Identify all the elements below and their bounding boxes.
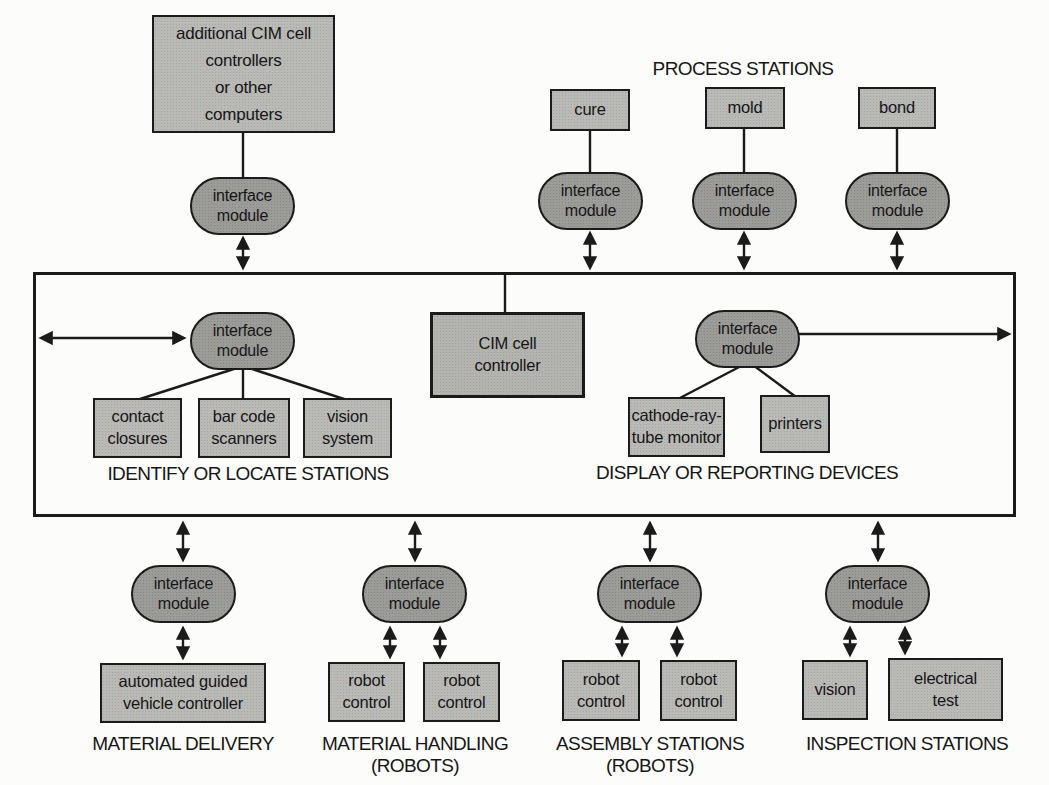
interface-module-pill-mold: interface module: [692, 172, 797, 230]
printers-box: printers: [760, 395, 830, 453]
bond-box: bond: [858, 87, 936, 129]
interface-module-pill-cure: interface module: [538, 172, 643, 230]
material-delivery-label: MATERIAL DELIVERY: [58, 733, 308, 755]
agv-controller-box: automated guided vehicle controller: [100, 663, 266, 723]
electrical-test-box: electrical test: [888, 658, 1003, 721]
mold-box: mold: [705, 87, 785, 129]
robot-control-box-2: robot control: [423, 662, 500, 722]
interface-module-pill-assembly: interface module: [597, 565, 702, 623]
cim-cell-controller-box: CIM cell controller: [430, 312, 585, 398]
robot-control-box-1: robot control: [328, 662, 405, 722]
robot-control-box-4: robot control: [660, 660, 737, 721]
identify-stations-label: IDENTIFY OR LOCATE STATIONS: [98, 463, 398, 485]
process-stations-label: PROCESS STATIONS: [618, 58, 868, 80]
interface-module-pill-identify: interface module: [190, 312, 295, 370]
additional-controllers-box: additional CIM cell controllers or other…: [152, 15, 335, 133]
assembly-stations-label: ASSEMBLY STATIONS: [525, 733, 775, 755]
bar-code-scanners-box: bar code scanners: [198, 398, 290, 458]
crt-monitor-box: cathode-ray- tube monitor: [628, 397, 725, 457]
cure-box: cure: [550, 89, 630, 131]
interface-module-pill-material-delivery: interface module: [131, 565, 236, 623]
interface-module-pill-material-handling: interface module: [362, 565, 467, 623]
vision-system-box: vision system: [303, 398, 392, 458]
material-handling-label: MATERIAL HANDLING: [290, 733, 540, 755]
robot-control-box-3: robot control: [562, 660, 640, 721]
interface-module-pill-additional: interface module: [190, 177, 295, 235]
inspection-stations-label: INSPECTION STATIONS: [782, 733, 1032, 755]
assembly-robots-sublabel: (ROBOTS): [525, 755, 775, 777]
interface-module-pill-inspection: interface module: [825, 565, 930, 623]
cim-cell-diagram: additional CIM cell controllers or other…: [0, 0, 1049, 785]
contact-closures-box: contact closures: [93, 398, 182, 458]
interface-module-pill-bond: interface module: [845, 172, 950, 230]
display-devices-label: DISPLAY OR REPORTING DEVICES: [596, 462, 866, 484]
vision-box: vision: [802, 660, 868, 720]
interface-module-pill-display: interface module: [695, 310, 800, 368]
material-handling-robots-sublabel: (ROBOTS): [290, 755, 540, 777]
